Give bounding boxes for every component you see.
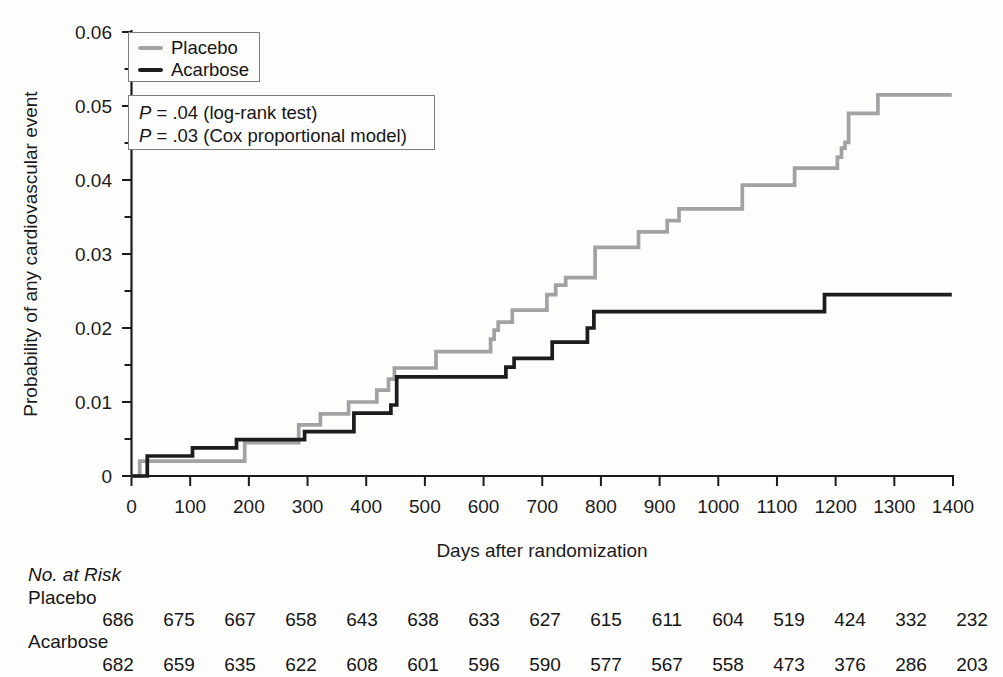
pvalue-annotation-box: P = .04 (log-rank test) P = .03 (Cox pro… xyxy=(128,95,435,150)
p-symbol: P xyxy=(139,102,151,123)
survival-chart: 0100200300400500600700800900100011001200… xyxy=(0,0,1003,560)
risk-count: 601 xyxy=(407,654,439,676)
risk-count: 633 xyxy=(468,609,500,631)
legend-label-placebo: Placebo xyxy=(171,39,238,58)
legend-item-acarbose: Acarbose xyxy=(138,59,259,81)
acarbose-line-swatch xyxy=(138,68,163,73)
placebo-curve xyxy=(132,95,952,476)
pvalue-logrank: P = .04 (log-rank test) xyxy=(139,101,434,124)
risk-count: 519 xyxy=(773,609,805,631)
x-tick-label: 700 xyxy=(526,496,558,517)
y-tick-label: 0.03 xyxy=(75,244,112,265)
x-tick-label: 300 xyxy=(292,496,324,517)
pvalue-cox: P = .03 (Cox proportional model) xyxy=(139,124,434,147)
risk-count: 643 xyxy=(346,609,378,631)
risk-count: 473 xyxy=(773,654,805,676)
y-tick-label: 0.01 xyxy=(75,392,112,413)
km-figure: 0100200300400500600700800900100011001200… xyxy=(0,0,1003,677)
x-tick-label: 1100 xyxy=(757,496,798,517)
x-tick-label: 500 xyxy=(409,496,441,517)
risk-count: 596 xyxy=(468,654,500,676)
x-tick-label: 1000 xyxy=(697,496,739,517)
risk-count: 611 xyxy=(652,609,682,631)
risk-values-placebo: 6866756676586436386336276156116045194243… xyxy=(0,609,1003,631)
x-tick-label: 1200 xyxy=(815,496,857,517)
acarbose-curve xyxy=(132,295,952,476)
x-tick-label: 200 xyxy=(233,496,265,517)
risk-count: 332 xyxy=(895,609,927,631)
risk-count: 659 xyxy=(163,654,195,676)
p-symbol: P xyxy=(139,125,151,146)
risk-count: 203 xyxy=(956,654,988,676)
x-tick-label: 100 xyxy=(174,496,206,517)
risk-row-label-acarbose: Acarbose xyxy=(28,631,108,653)
legend-label-acarbose: Acarbose xyxy=(171,61,249,80)
x-tick-label: 900 xyxy=(644,496,676,517)
x-axis-title: Days after randomization xyxy=(131,540,953,562)
risk-count: 376 xyxy=(834,654,866,676)
risk-row-label-placebo: Placebo xyxy=(28,587,97,609)
risk-count: 615 xyxy=(590,609,622,631)
placebo-line-swatch xyxy=(138,46,163,51)
risk-count: 686 xyxy=(102,609,134,631)
risk-values-acarbose: 6826596356226086015965905775675584733762… xyxy=(0,654,1003,676)
y-tick-label: 0.04 xyxy=(75,170,112,191)
risk-count: 635 xyxy=(224,654,256,676)
y-tick-label: 0.06 xyxy=(75,22,112,43)
pvalue-cox-text: = .03 (Cox proportional model) xyxy=(151,125,407,146)
risk-count: 667 xyxy=(224,609,256,631)
y-axis-title: Probability of any cardiovascular event xyxy=(20,91,42,416)
y-tick-label: 0 xyxy=(101,466,112,487)
risk-count: 658 xyxy=(285,609,317,631)
risk-count: 675 xyxy=(163,609,195,631)
risk-count: 590 xyxy=(529,654,561,676)
risk-count: 577 xyxy=(590,654,622,676)
legend-item-placebo: Placebo xyxy=(138,37,259,59)
x-tick-label: 1400 xyxy=(932,496,974,517)
y-tick-label: 0.02 xyxy=(75,318,112,339)
risk-count: 424 xyxy=(834,609,866,631)
risk-count: 608 xyxy=(346,654,378,676)
risk-count: 604 xyxy=(712,609,744,631)
risk-count: 286 xyxy=(895,654,927,676)
risk-table-title: No. at Risk xyxy=(28,564,121,586)
y-tick-label: 0.05 xyxy=(75,96,112,117)
x-tick-label: 1300 xyxy=(873,496,915,517)
risk-count: 682 xyxy=(102,654,134,676)
risk-count: 638 xyxy=(407,609,439,631)
risk-count: 627 xyxy=(529,609,561,631)
legend-box: Placebo Acarbose xyxy=(128,32,260,82)
x-tick-label: 800 xyxy=(585,496,617,517)
x-ticks: 0100200300400500600700800900100011001200… xyxy=(126,477,974,517)
x-tick-label: 600 xyxy=(468,496,500,517)
risk-count: 622 xyxy=(285,654,317,676)
x-tick-label: 400 xyxy=(350,496,382,517)
pvalue-logrank-text: = .04 (log-rank test) xyxy=(151,102,317,123)
risk-count: 232 xyxy=(956,609,988,631)
x-tick-label: 0 xyxy=(126,496,137,517)
risk-count: 558 xyxy=(712,654,744,676)
risk-count: 567 xyxy=(651,654,683,676)
y-ticks: 00.010.020.030.040.050.06 xyxy=(75,22,131,487)
